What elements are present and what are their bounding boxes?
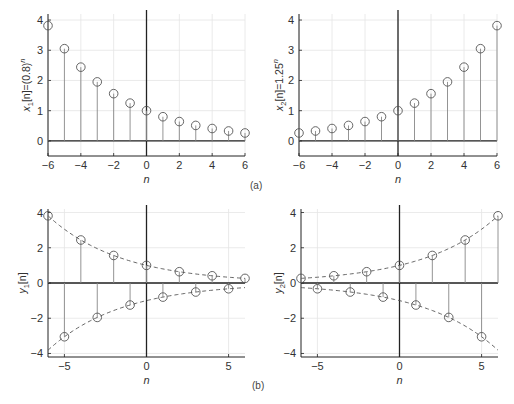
- x-tick-label: 6: [242, 159, 248, 171]
- x-tick-label: 6: [494, 159, 500, 171]
- y-tick-label: 4: [37, 14, 43, 26]
- y-tick-label: 2: [37, 242, 43, 254]
- y-tick-label: 0: [288, 135, 294, 147]
- x-tick-label: 5: [226, 360, 232, 372]
- y-axis-label: x2[n]=1.25n: [271, 59, 288, 112]
- x-tick-label: −5: [311, 360, 324, 372]
- x-axis-label: n: [396, 374, 402, 386]
- y-tick-label: 0: [290, 277, 296, 289]
- x-tick-label: 5: [479, 360, 485, 372]
- y-tick-label: 3: [288, 44, 294, 56]
- panel-label-b: (b): [252, 380, 264, 391]
- x-tick-label: 0: [395, 159, 401, 171]
- x-tick-label: −4: [75, 159, 88, 171]
- y-tick-label: 4: [290, 207, 296, 219]
- y-tick-label: 2: [288, 74, 294, 86]
- x-tick-label: −4: [326, 159, 339, 171]
- y-tick-label: −4: [283, 347, 296, 359]
- y-axis-label: y1[n]: [16, 272, 31, 294]
- y-tick-label: −2: [283, 312, 296, 324]
- y-tick-label: 4: [37, 207, 43, 219]
- y-tick-label: 4: [288, 14, 294, 26]
- y-tick-label: 3: [37, 44, 43, 56]
- x-axis-label: n: [143, 374, 149, 386]
- y-tick-label: 2: [37, 74, 43, 86]
- y-axis-label: x1[n]=(0.8)n: [18, 59, 35, 113]
- x-tick-label: 2: [176, 159, 182, 171]
- x-tick-label: −5: [58, 360, 71, 372]
- plot-x2-growing: −6−4−2024601234nx2[n]=1.25n: [271, 10, 501, 185]
- y-tick-label: 1: [288, 105, 294, 117]
- y-tick-label: 0: [37, 135, 43, 147]
- x-tick-label: −2: [359, 159, 372, 171]
- stem-plot-figure: −6−4−2024601234nx1[n]=(0.8)n −6−4−202460…: [0, 0, 514, 404]
- y-axis-label: y2[n]: [272, 272, 287, 294]
- plot-x1-decaying: −6−4−2024601234nx1[n]=(0.8)n: [18, 10, 249, 185]
- x-tick-label: 0: [396, 360, 402, 372]
- x-tick-label: −6: [293, 159, 306, 171]
- x-axis-label: n: [143, 173, 149, 185]
- x-tick-label: −2: [107, 159, 120, 171]
- x-axis-label: n: [395, 173, 401, 185]
- y-tick-label: 0: [37, 277, 43, 289]
- plot-y1-alternating-decaying: −505−4−2024ny1[n]: [16, 205, 249, 386]
- x-tick-label: 0: [143, 159, 149, 171]
- y-tick-label: 1: [37, 105, 43, 117]
- y-tick-label: −2: [30, 312, 43, 324]
- x-tick-label: 0: [143, 360, 149, 372]
- y-tick-label: 2: [290, 242, 296, 254]
- x-tick-label: 4: [461, 159, 467, 171]
- x-tick-label: 2: [428, 159, 434, 171]
- panel-label-a: (a): [250, 180, 262, 191]
- y-tick-label: −4: [30, 347, 43, 359]
- plot-y2-alternating-growing: −505−4−2024ny2[n]: [272, 205, 502, 386]
- x-tick-label: −6: [42, 159, 55, 171]
- x-tick-label: 4: [209, 159, 215, 171]
